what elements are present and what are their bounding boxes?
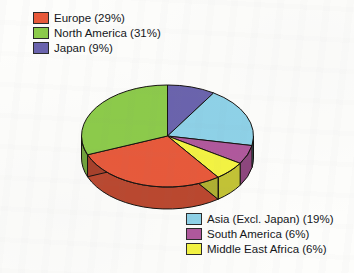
legend-item[interactable]: Europe (29%): [33, 11, 161, 25]
legend-swatch-europe: [33, 12, 49, 24]
legend-label-north-america: North America (31%): [54, 27, 161, 39]
pie-chart-figure: Europe (29%) North America (31%) Japan (…: [0, 0, 354, 273]
legend-item[interactable]: South America (6%): [186, 227, 334, 241]
legend-top: Europe (29%) North America (31%) Japan (…: [33, 11, 161, 56]
legend-item[interactable]: Middle East Africa (6%): [186, 242, 334, 256]
legend-swatch-south-america: [186, 228, 202, 240]
legend-item[interactable]: Japan (9%): [33, 41, 161, 55]
legend-label-middle-east-africa: Middle East Africa (6%): [207, 243, 327, 255]
legend-item[interactable]: Asia (Excl. Japan) (19%): [186, 212, 334, 226]
legend-swatch-japan: [33, 42, 49, 54]
legend-item[interactable]: North America (31%): [33, 26, 161, 40]
legend-label-japan: Japan (9%): [54, 42, 113, 54]
legend-swatch-middle-east-africa: [186, 243, 202, 255]
legend-swatch-asia: [186, 213, 202, 225]
legend-label-south-america: South America (6%): [207, 228, 309, 240]
legend-swatch-north-america: [33, 27, 49, 39]
legend-bottom: Asia (Excl. Japan) (19%) South America (…: [186, 212, 334, 257]
legend-label-asia: Asia (Excl. Japan) (19%): [207, 213, 334, 225]
legend-label-europe: Europe (29%): [54, 12, 125, 24]
